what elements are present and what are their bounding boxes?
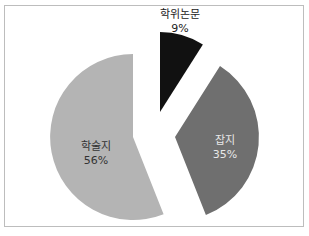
slice-label-percent: 9%	[171, 22, 188, 35]
slice-label-percent: 35%	[213, 148, 237, 161]
slice-label-percent: 56%	[84, 154, 108, 167]
pie-chart: 학위논문9%잡지35%학술지56%	[0, 0, 309, 236]
slice-label-name: 잡지	[215, 134, 235, 147]
slice-label-name: 학위논문	[160, 8, 200, 21]
slice-label-name: 학술지	[81, 140, 111, 153]
pie-slice-3	[50, 54, 163, 220]
pie-slice-1	[160, 32, 203, 112]
